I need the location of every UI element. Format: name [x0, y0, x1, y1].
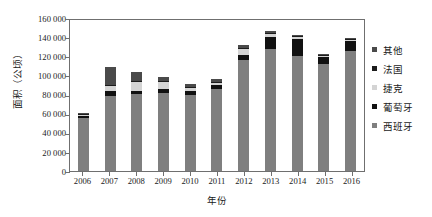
stacked-bar[interactable]	[105, 67, 116, 171]
legend-swatch-icon	[372, 66, 377, 71]
bar-slot	[180, 20, 201, 171]
bar-segment	[292, 56, 303, 171]
x-tick-label: 2011	[206, 176, 227, 190]
bar-segment	[265, 37, 276, 48]
x-tick-mark	[109, 172, 110, 176]
x-tick-mark	[298, 172, 299, 176]
y-tick-mark	[65, 153, 70, 154]
y-tick-mark	[65, 134, 70, 135]
bar-segment	[292, 39, 303, 56]
y-tick-mark	[65, 172, 70, 173]
y-tick-label: 0	[18, 168, 66, 177]
x-tick-mark	[271, 172, 272, 176]
x-tick-label: 2007	[99, 176, 120, 190]
chart-legend: 其他法国捷克葡萄牙西班牙	[372, 40, 432, 135]
x-tick-mark	[82, 172, 83, 176]
y-tick-label: 120 000	[18, 53, 66, 62]
y-tick-label: 80 000	[18, 91, 66, 100]
x-tick-label: 2006	[72, 176, 93, 190]
stacked-bar[interactable]	[265, 31, 276, 171]
legend-item[interactable]: 其他	[372, 40, 432, 59]
bar-segment	[78, 118, 89, 171]
y-tick-label: 100 000	[18, 72, 66, 81]
x-tick-mark	[217, 172, 218, 176]
stacked-bar[interactable]	[158, 77, 169, 171]
legend-swatch-icon	[372, 104, 377, 109]
bar-segment	[131, 72, 142, 82]
x-tick-label: 2016	[341, 176, 362, 190]
stacked-bar[interactable]	[131, 72, 142, 171]
x-tick-mark	[325, 172, 326, 176]
stacked-bar[interactable]	[78, 113, 89, 171]
bar-slot	[287, 20, 308, 171]
bar-slot	[313, 20, 334, 171]
bar-slot	[153, 20, 174, 171]
x-tick-label: 2008	[126, 176, 147, 190]
legend-swatch-icon	[372, 47, 377, 52]
stacked-bar[interactable]	[318, 54, 329, 171]
bar-segment	[158, 82, 169, 89]
plot-area	[69, 19, 365, 172]
bar-slot	[126, 20, 147, 171]
x-axis-tick-labels: 2006200720082009201020112012201320142015…	[69, 176, 365, 190]
y-tick-label: 20 000	[18, 149, 66, 158]
bar-slot	[260, 20, 281, 171]
y-tick-mark	[65, 96, 70, 97]
bar-segment	[131, 82, 142, 91]
stacked-bar[interactable]	[211, 79, 222, 171]
stacked-bar[interactable]	[345, 38, 356, 171]
y-tick-mark	[65, 115, 70, 116]
x-tick-label: 2014	[287, 176, 308, 190]
bar-segment	[131, 94, 142, 171]
x-tick-label: 2010	[179, 176, 200, 190]
bar-series-container	[70, 20, 364, 171]
stacked-bar[interactable]	[185, 84, 196, 171]
legend-swatch-icon	[372, 85, 377, 90]
bar-segment	[158, 93, 169, 171]
bar-slot	[73, 20, 94, 171]
legend-label: 捷克	[383, 81, 403, 95]
y-tick-label: 60 000	[18, 110, 66, 119]
x-tick-label: 2013	[260, 176, 281, 190]
bar-segment	[105, 96, 116, 171]
bar-segment	[238, 60, 249, 171]
bar-chart: 面积（公顷） 160 000140 000120 000100 00080 00…	[0, 0, 432, 217]
x-tick-mark	[352, 172, 353, 176]
legend-item[interactable]: 西班牙	[372, 116, 432, 135]
y-axis-tick-labels: 160 000140 000120 000100 00080 00060 000…	[18, 0, 66, 217]
legend-label: 其他	[383, 43, 403, 57]
bar-slot	[206, 20, 227, 171]
legend-label: 法国	[383, 62, 403, 76]
stacked-bar[interactable]	[292, 35, 303, 171]
y-tick-mark	[65, 38, 70, 39]
legend-item[interactable]: 捷克	[372, 78, 432, 97]
x-tick-mark	[244, 172, 245, 176]
bar-segment	[211, 89, 222, 171]
y-tick-label: 160 000	[18, 15, 66, 24]
bar-segment	[318, 64, 329, 171]
x-tick-mark	[163, 172, 164, 176]
y-tick-mark	[65, 76, 70, 77]
bar-segment	[238, 49, 249, 56]
x-tick-label: 2012	[233, 176, 254, 190]
legend-swatch-icon	[372, 123, 377, 128]
stacked-bar[interactable]	[238, 45, 249, 171]
legend-item[interactable]: 法国	[372, 59, 432, 78]
y-tick-label: 40 000	[18, 129, 66, 138]
x-tick-mark	[190, 172, 191, 176]
x-tick-label: 2015	[314, 176, 335, 190]
bar-segment	[318, 57, 329, 64]
bar-segment	[105, 67, 116, 85]
bar-slot	[233, 20, 254, 171]
bar-segment	[265, 49, 276, 171]
bar-segment	[345, 41, 356, 51]
bar-slot	[340, 20, 361, 171]
bar-segment	[185, 95, 196, 172]
y-tick-mark	[65, 57, 70, 58]
y-tick-label: 140 000	[18, 34, 66, 43]
legend-label: 葡萄牙	[383, 100, 413, 114]
x-tick-mark	[136, 172, 137, 176]
legend-label: 西班牙	[383, 119, 413, 133]
bar-segment	[345, 51, 356, 171]
legend-item[interactable]: 葡萄牙	[372, 97, 432, 116]
